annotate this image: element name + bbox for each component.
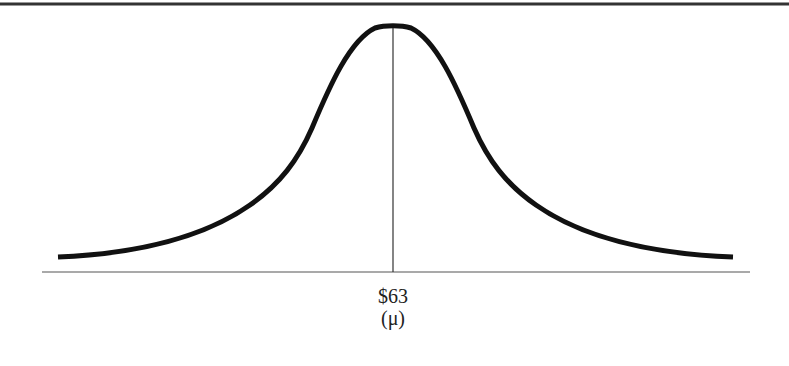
mean-symbol-label: (μ) [333,307,453,329]
bell-curve [58,26,733,257]
mean-value-label: $63 [333,285,453,307]
